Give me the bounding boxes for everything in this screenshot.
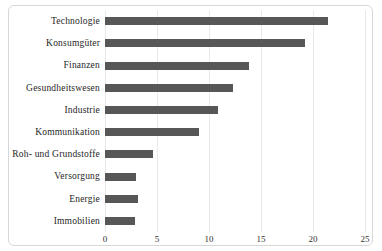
bar [105,217,135,225]
category-label: Gesundheitswesen [10,77,100,99]
bar [105,17,328,25]
x-tick-label: 5 [142,234,172,244]
gridline [313,10,314,232]
category-label: Finanzen [10,54,100,76]
category-label: Kommunikation [10,121,100,143]
bar-chart: TechnologieKonsumgüterFinanzenGesundheit… [0,0,382,251]
bar [105,62,249,70]
category-label: Industrie [10,99,100,121]
bar [105,106,218,114]
x-tick-label: 15 [246,234,276,244]
x-tick-label: 10 [194,234,224,244]
bar [105,195,138,203]
category-label: Technologie [10,10,100,32]
category-label: Energie [10,188,100,210]
category-label: Versorgung [10,165,100,187]
gridline [365,10,366,232]
bar [105,173,136,181]
bar [105,39,305,47]
x-tick-label: 0 [90,234,120,244]
bar [105,150,153,158]
x-tick-label: 20 [298,234,328,244]
bar [105,128,199,136]
category-label: Konsumgüter [10,32,100,54]
x-tick-label: 25 [350,234,380,244]
bar [105,84,233,92]
category-label: Roh- und Grundstoffe [10,143,100,165]
category-label: Immobilien [10,210,100,232]
